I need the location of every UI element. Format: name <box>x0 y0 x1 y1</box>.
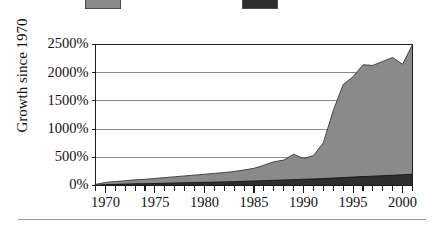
x-tick-label: 1995 <box>339 194 368 210</box>
y-tick-label: 1000% <box>47 120 88 136</box>
y-tick-label: 500% <box>55 148 89 164</box>
chart-plot-area: 0%500%1000%1500%2000%2500%19701975198019… <box>0 0 443 231</box>
y-tick-label: 1500% <box>47 92 88 108</box>
x-tick-label: 1970 <box>91 194 120 210</box>
x-tick-label: 1990 <box>289 194 318 210</box>
x-tick-label: 1975 <box>140 194 169 210</box>
y-tick-label: 2500% <box>47 35 88 51</box>
x-tick-label: 2000 <box>388 194 417 210</box>
bottom-divider <box>18 219 426 220</box>
x-tick-label: 1980 <box>190 194 219 210</box>
y-tick-label: 2000% <box>47 64 88 80</box>
x-tick-label: 1985 <box>240 194 269 210</box>
chart-figure: Growth since 1970 0%500%1000%1500%2000%2… <box>0 0 443 231</box>
y-tick-label: 0% <box>69 176 88 192</box>
